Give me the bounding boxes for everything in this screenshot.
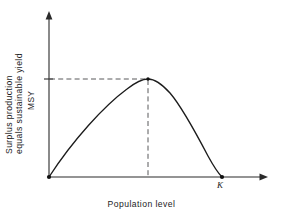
surplus-production-figure: Surplus production equals sustainable yi… — [0, 0, 283, 214]
y-axis-label-line1: Surplus production — [4, 75, 14, 154]
peak-dot — [146, 77, 149, 80]
msy-tick-label: MSY — [26, 91, 36, 110]
plot-canvas — [0, 0, 283, 214]
surplus-production-curve — [49, 79, 222, 177]
y-axis-label-line2: equals sustainable yield — [14, 53, 24, 154]
carrying-capacity-label: K — [217, 180, 223, 190]
carrying-capacity-dot — [220, 175, 224, 179]
y-axis-arrow-icon — [46, 11, 53, 20]
x-axis-arrow-icon — [260, 174, 269, 181]
x-axis-label: Population level — [0, 199, 283, 209]
origin-dot — [47, 175, 51, 179]
